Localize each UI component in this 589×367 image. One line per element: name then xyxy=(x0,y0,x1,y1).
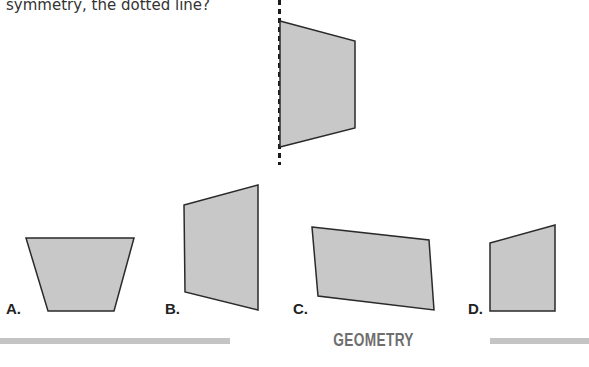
footer-rule-left xyxy=(0,338,230,344)
option-c-shape[interactable] xyxy=(312,227,434,310)
option-d-shape[interactable] xyxy=(490,225,555,311)
section-title: GEOMETRY xyxy=(333,329,391,351)
option-a-label[interactable]: A. xyxy=(6,300,21,317)
footer-rule-right xyxy=(490,338,589,344)
option-a-shape[interactable] xyxy=(26,238,134,311)
reference-shape xyxy=(280,21,355,147)
option-b-shape[interactable] xyxy=(184,185,258,310)
option-b-label[interactable]: B. xyxy=(165,300,180,317)
option-c-label[interactable]: C. xyxy=(293,300,308,317)
option-d-label[interactable]: D. xyxy=(468,300,483,317)
